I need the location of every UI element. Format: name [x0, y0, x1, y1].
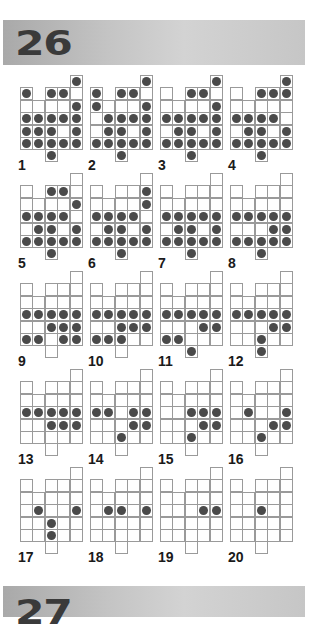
section-number: 26	[15, 23, 72, 63]
grid-cell	[115, 296, 128, 309]
ball-icon	[92, 408, 101, 417]
grid-cell	[45, 125, 58, 138]
ball-icon	[257, 151, 266, 160]
grid-cell	[255, 394, 268, 407]
grid-cell	[197, 529, 210, 542]
grid-cell	[185, 185, 198, 198]
grid-cell	[242, 296, 255, 309]
grid-cell	[172, 198, 185, 211]
grid-cell	[267, 137, 280, 150]
puzzle-label: 18	[88, 549, 104, 565]
grid-cell	[140, 467, 153, 480]
ball-icon	[72, 102, 81, 111]
grid-cell	[230, 479, 243, 492]
ball-icon	[92, 212, 101, 221]
grid-cell	[127, 296, 140, 309]
grid-cell	[267, 296, 280, 309]
grid-cell	[280, 394, 293, 407]
ball-icon	[47, 323, 56, 332]
grid-cell	[160, 235, 173, 248]
ball-icon	[22, 237, 31, 246]
grid-cell	[280, 333, 293, 346]
ball-icon	[47, 151, 56, 160]
grid-cell	[90, 112, 103, 125]
grid-cell	[102, 223, 115, 236]
grid-cell	[90, 308, 103, 321]
grid-cell	[255, 419, 268, 432]
grid-cell	[185, 296, 198, 309]
ball-icon	[72, 237, 81, 246]
grid-cell	[280, 75, 293, 88]
ball-icon	[117, 212, 126, 221]
grid-cell	[242, 394, 255, 407]
grid-cell	[160, 296, 173, 309]
grid-cell	[197, 406, 210, 419]
ball-icon	[34, 139, 43, 148]
grid-cell	[197, 185, 210, 198]
puzzle-label: 9	[18, 353, 26, 369]
ball-icon	[34, 212, 43, 221]
grid-cell	[197, 235, 210, 248]
grid-cell	[185, 137, 198, 150]
ball-icon	[257, 506, 266, 515]
section-number: 27	[15, 592, 72, 628]
grid-cell	[127, 308, 140, 321]
grid-cell	[127, 504, 140, 517]
grid-cell	[267, 235, 280, 248]
grid-cell	[280, 112, 293, 125]
grid-cell	[160, 87, 173, 100]
grid-cell	[115, 247, 128, 260]
grid-cell	[172, 321, 185, 334]
grid-cell	[57, 198, 70, 211]
grid-cell	[280, 517, 293, 530]
grid-cell	[185, 125, 198, 138]
grid-cell	[32, 223, 45, 236]
grid-cell	[160, 431, 173, 444]
ball-icon	[72, 323, 81, 332]
grid-cell	[185, 345, 198, 358]
ball-icon	[72, 421, 81, 430]
ball-icon	[72, 139, 81, 148]
grid-cell	[57, 504, 70, 517]
grid-cell	[197, 517, 210, 530]
grid-cell	[20, 419, 33, 432]
grid-cell	[45, 283, 58, 296]
ball-icon	[269, 323, 278, 332]
ball-icon	[117, 323, 126, 332]
grid-cell	[90, 210, 103, 223]
grid-cell	[90, 333, 103, 346]
grid-cell	[185, 443, 198, 456]
grid-cell	[102, 125, 115, 138]
ball-icon	[187, 249, 196, 258]
grid-cell	[185, 283, 198, 296]
puzzle-1: 1	[20, 75, 84, 171]
grid-cell	[185, 504, 198, 517]
grid-cell	[90, 198, 103, 211]
grid-cell	[172, 235, 185, 248]
ball-icon	[47, 531, 56, 540]
grid-cell	[230, 321, 243, 334]
grid-cell	[280, 185, 293, 198]
grid-cell	[172, 431, 185, 444]
grid-cell	[45, 235, 58, 248]
grid-cell	[45, 406, 58, 419]
grid-cell	[230, 235, 243, 248]
grid-cell	[230, 137, 243, 150]
grid-cell	[172, 308, 185, 321]
grid-cell	[70, 173, 83, 186]
grid-cell	[197, 321, 210, 334]
grid-cell	[57, 419, 70, 432]
grid-cell	[280, 87, 293, 100]
ball-icon	[199, 421, 208, 430]
grid-cell	[280, 492, 293, 505]
grid-cell	[102, 137, 115, 150]
ball-icon	[117, 114, 126, 123]
puzzle-label: 7	[158, 255, 166, 271]
grid-cell	[102, 198, 115, 211]
ball-icon	[232, 310, 241, 319]
grid-cell	[267, 198, 280, 211]
grid-cell	[115, 345, 128, 358]
grid-cell	[90, 394, 103, 407]
ball-icon	[104, 310, 113, 319]
ball-icon	[47, 310, 56, 319]
